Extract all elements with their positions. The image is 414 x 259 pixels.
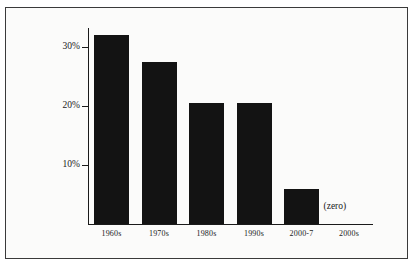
x-axis-label-1960s: 1960s <box>85 230 138 239</box>
bar-1980s <box>189 103 224 224</box>
clipped-text-band <box>0 0 414 7</box>
x-axis-labels: 1960s1970s1980s1990s2000-72000s <box>6 230 408 246</box>
figure-frame: 30%20%10% 1960s1970s1980s1990s2000-72000… <box>5 7 408 259</box>
zero-annotation: (zero) <box>324 202 347 212</box>
bar-1990s <box>237 103 272 224</box>
x-axis-label-1990s: 1990s <box>228 230 281 239</box>
x-axis-label-1980s: 1980s <box>180 230 233 239</box>
x-axis-label-1970s: 1970s <box>133 230 186 239</box>
bars-layer <box>6 8 408 224</box>
x-axis-label-2000s: 2000s <box>323 230 376 239</box>
bar-1960s <box>94 35 129 224</box>
bar-1970s <box>142 62 177 224</box>
x-axis-line <box>88 224 373 225</box>
x-axis-label-2000-7: 2000-7 <box>275 230 328 239</box>
bar-chart-plot-area: 30%20%10% 1960s1970s1980s1990s2000-72000… <box>6 8 408 259</box>
bar-2000-7 <box>284 189 319 224</box>
